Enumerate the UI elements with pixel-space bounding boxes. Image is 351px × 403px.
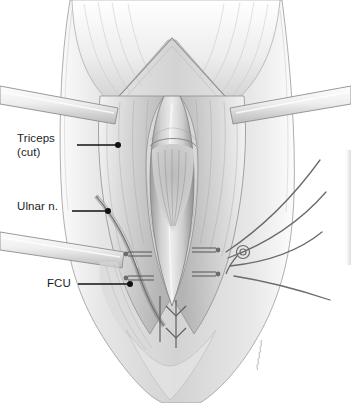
adjacent-figure-edge [346,150,351,265]
label-ulnar-nerve: Ulnar n. [17,200,58,214]
artist-signature [257,340,262,370]
label-fcu: FCU [47,277,71,291]
label-triceps: Triceps (cut) [17,132,55,159]
medical-illustration-figure: Triceps (cut) Ulnar n. FCU [0,0,351,403]
